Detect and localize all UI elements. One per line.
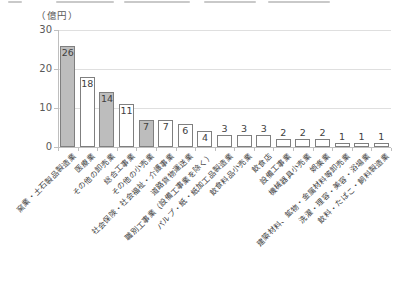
bar-chart-figure: （億円） 010203026窯業・土石製品製造業18医療業14その他の卸売業11…: [0, 0, 398, 302]
x-tick-mark: [97, 148, 98, 151]
x-tick-mark: [293, 148, 294, 151]
bar: [256, 135, 271, 147]
x-tick-mark: [156, 148, 157, 151]
bar-value-label: 1: [370, 132, 392, 142]
x-tick-mark: [78, 148, 79, 151]
x-tick-mark: [254, 148, 255, 151]
clipped-title-remnant: [56, 1, 114, 3]
y-axis-unit-label: （億円）: [36, 8, 78, 22]
x-tick-mark: [234, 148, 235, 151]
bar: [276, 139, 291, 147]
x-tick-mark: [313, 148, 314, 151]
x-axis-line: [58, 147, 391, 148]
bar-value-label: 18: [76, 79, 98, 89]
x-tick-mark: [136, 148, 137, 151]
clipped-title-remnant: [124, 1, 190, 3]
bar: [217, 135, 232, 147]
bar: [354, 143, 369, 147]
x-tick-mark: [273, 148, 274, 151]
x-tick-mark: [391, 148, 392, 151]
clipped-title-remnant: [204, 1, 256, 3]
bar-value-label: 26: [57, 48, 79, 58]
x-tick-mark: [332, 148, 333, 151]
bar: [295, 139, 310, 147]
y-tick-label: 20: [32, 64, 52, 74]
clipped-title-remnant: [268, 1, 330, 3]
bar: [335, 143, 350, 147]
x-tick-mark: [371, 148, 372, 151]
x-tick-mark: [58, 148, 59, 151]
y-tick-label: 10: [32, 103, 52, 113]
bar: [374, 143, 389, 147]
y-gridline: [58, 30, 391, 31]
bar: [60, 46, 75, 147]
x-tick-mark: [215, 148, 216, 151]
y-tick-label: 30: [32, 25, 52, 35]
y-tick-label: 0: [32, 142, 52, 152]
x-tick-mark: [195, 148, 196, 151]
x-tick-mark: [352, 148, 353, 151]
bar-value-label: 14: [96, 94, 118, 104]
clipped-title-remnant: [8, 1, 22, 3]
x-tick-mark: [176, 148, 177, 151]
bar: [237, 135, 252, 147]
bar: [315, 139, 330, 147]
x-tick-mark: [117, 148, 118, 151]
bar-value-label: 11: [116, 106, 138, 116]
y-gridline: [58, 69, 391, 70]
bar-value-label: 4: [194, 133, 216, 143]
